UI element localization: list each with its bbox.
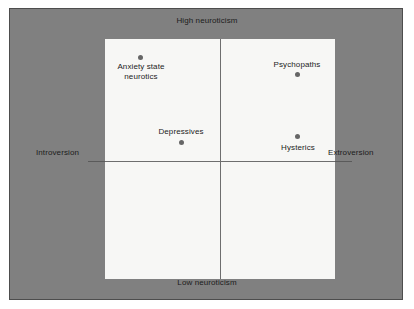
data-point-hysterics (295, 134, 300, 139)
data-point-psychopaths (295, 72, 300, 77)
data-label-anxiety-state-neurotics: Anxiety state neurotics (96, 62, 186, 82)
data-point-anxiety-state-neurotics (138, 55, 143, 60)
eysenck-personality-quadrant-figure: Anxiety state neurotics Psychopaths Depr… (0, 0, 414, 309)
neuroticism-axis-line (220, 39, 221, 279)
axis-pole-label-low-neuroticism: Low neuroticism (0, 278, 414, 287)
data-point-depressives (179, 140, 184, 145)
axis-pole-label-introversion: Introversion (36, 148, 79, 157)
axis-pole-label-high-neuroticism: High neuroticism (0, 16, 414, 25)
introversion-extroversion-axis-line (105, 161, 335, 162)
data-label-depressives: Depressives (136, 127, 226, 137)
axis-stub-right (335, 161, 352, 162)
axis-stub-left (88, 161, 105, 162)
data-label-psychopaths: Psychopaths (252, 60, 342, 70)
axis-pole-label-extroversion: Extroversion (328, 148, 374, 157)
